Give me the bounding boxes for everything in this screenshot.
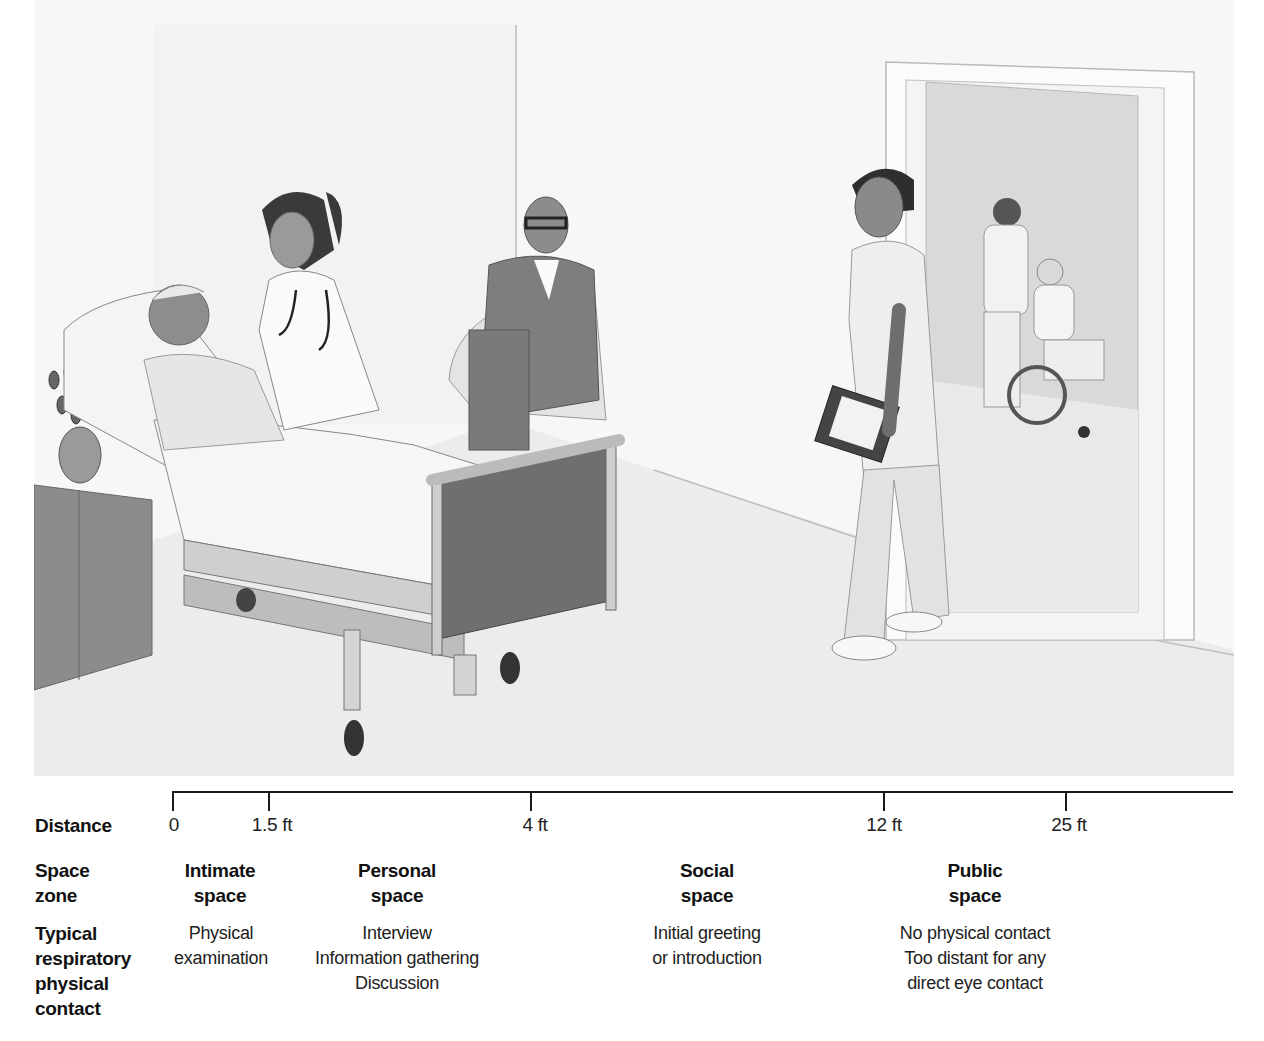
- zone-name-intimate: Intimate space: [185, 858, 255, 908]
- zone-desc-line: Information gathering: [315, 946, 479, 971]
- row-label-line: contact: [35, 996, 131, 1021]
- tick-0: [172, 791, 174, 811]
- zone-desc-line: Initial greeting: [652, 921, 762, 946]
- tick-12ft: [883, 791, 885, 811]
- zone-desc-line: or introduction: [652, 946, 762, 971]
- zone-name-public: Public space: [947, 858, 1002, 908]
- row-label-line: Space: [35, 858, 89, 883]
- tick-1-5ft: [268, 791, 270, 811]
- zone-desc-line: examination: [174, 946, 268, 971]
- scale-axis-line: [173, 791, 1233, 793]
- zone-name-line: Public: [947, 858, 1002, 883]
- zone-name-line: space: [358, 883, 436, 908]
- zone-desc-line: direct eye contact: [900, 971, 1050, 996]
- row-label-line: zone: [35, 883, 89, 908]
- zone-name-line: space: [680, 883, 734, 908]
- zone-desc-line: No physical contact: [900, 921, 1050, 946]
- zone-desc-line: Physical: [174, 921, 268, 946]
- zone-desc-personal: Interview Information gathering Discussi…: [315, 921, 479, 996]
- tick-label-1-5ft: 1.5 ft: [252, 814, 292, 836]
- zone-name-line: Personal: [358, 858, 436, 883]
- row-label-contact: Typical respiratory physical contact: [35, 921, 131, 1021]
- zone-name-social: Social space: [680, 858, 734, 908]
- zone-name-line: Social: [680, 858, 734, 883]
- zone-desc-intimate: Physical examination: [174, 921, 268, 971]
- zone-name-personal: Personal space: [358, 858, 436, 908]
- zone-desc-line: Discussion: [315, 971, 479, 996]
- hospital-room-illustration: [34, 0, 1234, 776]
- tick-25ft: [1065, 791, 1067, 811]
- tick-4ft: [530, 791, 532, 811]
- zone-desc-public: No physical contact Too distant for any …: [900, 921, 1050, 996]
- row-label-line: respiratory: [35, 946, 131, 971]
- tick-label-12ft: 12 ft: [866, 814, 901, 836]
- row-label-line: physical: [35, 971, 131, 996]
- zone-name-line: space: [185, 883, 255, 908]
- row-label-space-zone: Space zone: [35, 858, 89, 908]
- distance-scale: 0 1.5 ft 4 ft 12 ft 25 ft: [0, 780, 1264, 840]
- tick-label-4ft: 4 ft: [522, 814, 547, 836]
- zone-desc-line: Too distant for any: [900, 946, 1050, 971]
- zone-desc-line: Interview: [315, 921, 479, 946]
- row-label-distance: Distance: [35, 813, 112, 838]
- row-label-line: Typical: [35, 921, 131, 946]
- zone-name-line: space: [947, 883, 1002, 908]
- tick-label-0: 0: [169, 814, 179, 836]
- tick-label-25ft: 25 ft: [1051, 814, 1086, 836]
- zone-name-line: Intimate: [185, 858, 255, 883]
- zone-desc-social: Initial greeting or introduction: [652, 921, 762, 971]
